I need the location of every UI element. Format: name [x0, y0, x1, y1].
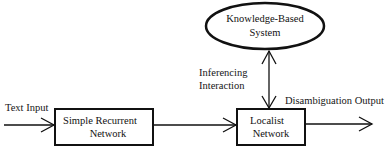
inferencing-label-2: Interaction: [199, 79, 244, 92]
localist-label-2: Network: [253, 127, 290, 140]
knowledge-system-label-2: System: [215, 26, 315, 40]
localist-node: Localist Network: [236, 108, 306, 146]
knowledge-system-label-1: Knowledge-Based: [215, 12, 315, 26]
srn-node: Simple Recurrent Network: [54, 108, 154, 146]
inferencing-arrow: [262, 51, 276, 108]
output-label: Disambiguation Output: [285, 94, 384, 107]
knowledge-system-node: Knowledge-Based System: [215, 12, 315, 40]
srn-label-1: Simple Recurrent: [63, 114, 137, 127]
output-arrow: [305, 117, 372, 131]
text-input-label: Text Input: [5, 101, 48, 114]
inferencing-label-1: Inferencing: [199, 66, 247, 79]
srn-label-2: Network: [90, 127, 127, 140]
localist-label-1: Localist: [250, 114, 284, 127]
srn-to-localist-arrow: [153, 118, 236, 132]
text-input-arrow: [4, 118, 54, 132]
